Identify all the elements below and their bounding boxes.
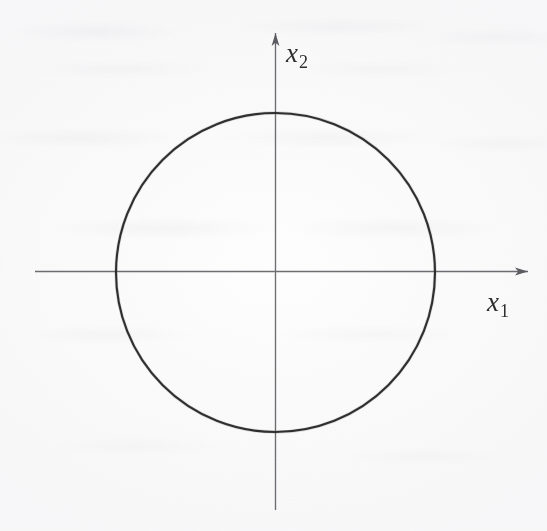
plot-svg [0, 0, 547, 531]
x2-axis-label-base: x [286, 38, 298, 68]
x2-axis-label-subscript: 2 [299, 52, 308, 72]
x1-axis-label: x1 [487, 289, 508, 316]
figure-canvas: x2 x1 [0, 0, 547, 531]
x1-axis-label-subscript: 1 [500, 301, 509, 321]
x1-axis-label-base: x [487, 287, 499, 317]
x2-axis-label: x2 [286, 40, 307, 67]
